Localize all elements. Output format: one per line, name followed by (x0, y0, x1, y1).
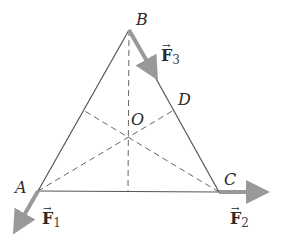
force-f3-subscript: 3 (172, 53, 180, 67)
label-point-o: O (131, 112, 144, 128)
label-force-f2: → F2 (230, 211, 249, 229)
force-f1-subscript: 1 (53, 216, 61, 230)
force-f2-subscript: 2 (241, 216, 249, 230)
label-point-a: A (15, 180, 27, 196)
median-a (38, 110, 174, 191)
vector-arrow-icon: → (43, 204, 51, 214)
vector-arrow-icon: → (162, 41, 170, 51)
edge-ab (38, 30, 129, 191)
label-force-f3: → F3 (161, 48, 180, 66)
force-arrow-f3 (129, 30, 152, 70)
median-b (128, 30, 129, 192)
label-force-f1: → F1 (42, 211, 61, 229)
label-point-b: B (136, 12, 148, 28)
median-c (83, 110, 219, 192)
medians (38, 30, 219, 192)
label-point-c: C (224, 172, 236, 188)
label-point-d: D (178, 92, 191, 108)
vector-arrow-icon: → (231, 204, 239, 214)
